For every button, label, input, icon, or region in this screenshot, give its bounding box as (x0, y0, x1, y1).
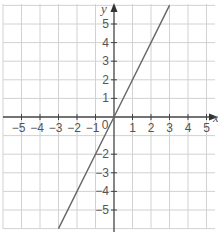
x-tick-label: 3 (166, 121, 173, 135)
x-tick-label: 5 (203, 121, 210, 135)
x-axis (3, 114, 218, 121)
coordinate-plane: −5−4−3−2−11234554321−2−3−4−50yx (0, 0, 218, 232)
y-tick-label: 4 (102, 36, 109, 50)
origin-label: 0 (102, 118, 109, 132)
x-tick-label: −3 (49, 121, 63, 135)
x-tick-label: 4 (185, 121, 192, 135)
x-tick-label: −1 (86, 121, 100, 135)
y-tick-label: 1 (102, 91, 109, 105)
x-tick-label: −4 (30, 121, 44, 135)
y-axis-label: y (99, 1, 107, 16)
x-tick-label: 2 (148, 121, 155, 135)
y-axis-arrow-icon (111, 3, 118, 12)
x-axis-label: x (212, 110, 218, 125)
x-tick-label: 1 (129, 121, 136, 135)
x-tick-label: −5 (12, 121, 26, 135)
axis-labels: −5−4−3−2−11234554321−2−3−4−50yx (12, 1, 218, 217)
y-tick-label: −3 (95, 166, 109, 180)
y-tick-label: −4 (95, 184, 109, 198)
y-tick-label: 5 (102, 17, 109, 31)
y-tick-label: −2 (95, 147, 109, 161)
x-tick-label: −2 (67, 121, 81, 135)
y-tick-label: 2 (102, 73, 109, 87)
y-tick-label: 3 (102, 54, 109, 68)
y-tick-label: −5 (95, 203, 109, 217)
